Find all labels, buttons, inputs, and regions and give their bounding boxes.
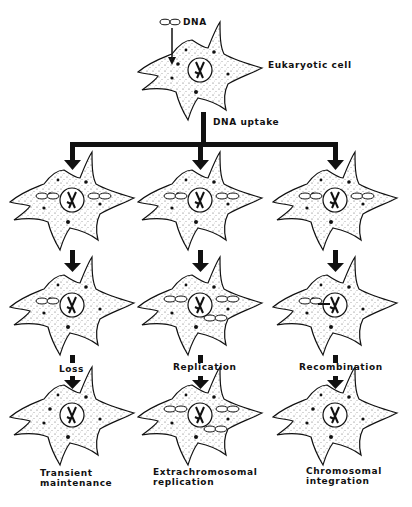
outcome-extrachromosomal-replication: Extrachromosomal replication [153, 467, 257, 487]
row2-to-row3-arrows [64, 355, 344, 389]
row2-transient-cell-icon [10, 257, 134, 355]
row2-extrachromosomal-cell-icon [138, 257, 262, 355]
top-dna-plasmid-icon [160, 19, 180, 25]
loss-label: Loss [59, 364, 84, 374]
replication-label: Replication [173, 362, 237, 372]
uptake-branch-arrows [64, 112, 344, 170]
eukaryotic-cell-label: Eukaryotic cell [268, 60, 352, 70]
row1-to-row2-arrows [64, 250, 344, 272]
outcome-line1: Chromosomal [306, 466, 382, 476]
recombination-label: Recombination [299, 362, 383, 372]
outcome-line2: replication [153, 477, 257, 487]
outcome-transient-maintenance: Transient maintenance [40, 468, 112, 488]
outcome-line1: Extrachromosomal [153, 467, 257, 477]
row2-chromosomal-cell-icon [273, 257, 397, 355]
outcome-line2: integration [306, 476, 382, 486]
diagram-canvas [0, 0, 412, 507]
outcome-line1: Transient [40, 468, 112, 478]
outcome-chromosomal-integration: Chromosomal integration [306, 466, 382, 486]
eukaryotic-cell-icon [138, 22, 262, 120]
outcome-line2: maintenance [40, 478, 112, 488]
dna-uptake-label: DNA uptake [213, 117, 279, 127]
dna-label: DNA [183, 17, 207, 27]
